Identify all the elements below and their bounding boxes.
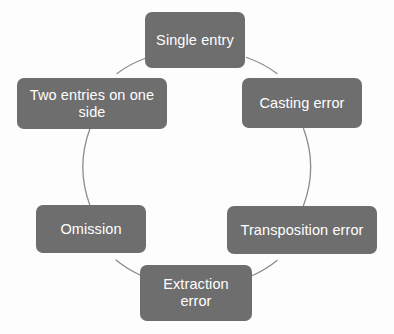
arc-single-entry-to-casting-error <box>247 58 278 74</box>
arc-casting-error-to-transposition-error <box>304 129 311 206</box>
node-two-entries-label-line2: side <box>79 104 106 120</box>
node-extraction-error-label: Extraction error <box>146 276 246 309</box>
arc-two-entries-to-single-entry <box>117 58 148 74</box>
arc-omission-to-two-entries <box>83 129 90 206</box>
node-transposition-error-label: Transposition error <box>233 222 371 239</box>
node-omission[interactable]: Omission <box>36 205 146 253</box>
node-single-entry[interactable]: Single entry <box>145 12 245 68</box>
arc-transposition-error-to-extraction-error <box>253 261 278 276</box>
cycle-diagram: Single entry Casting error Transposition… <box>0 0 394 334</box>
arc-extraction-error-to-omission <box>116 260 140 275</box>
node-casting-error[interactable]: Casting error <box>242 78 362 128</box>
node-extraction-error-label-line2: error <box>180 293 211 309</box>
node-two-entries-label-line1: Two entries on one <box>30 87 154 103</box>
node-transposition-error[interactable]: Transposition error <box>227 206 377 254</box>
node-casting-error-label: Casting error <box>248 95 356 112</box>
node-extraction-error-label-line1: Extraction <box>163 276 228 292</box>
node-extraction-error[interactable]: Extraction error <box>140 265 252 321</box>
node-two-entries-on-one-side-label: Two entries on one side <box>23 87 161 120</box>
node-two-entries-on-one-side[interactable]: Two entries on one side <box>17 78 167 129</box>
node-single-entry-label: Single entry <box>151 32 239 49</box>
node-omission-label: Omission <box>42 221 140 238</box>
